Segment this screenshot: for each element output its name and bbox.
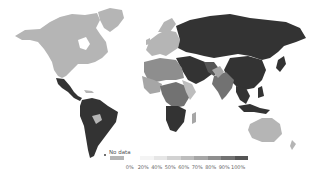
- legend-no-data-label: No data: [109, 149, 131, 155]
- legend-tick: 60%: [177, 164, 191, 170]
- legend-tick-labels: 0% 20% 40% 50% 60% 70% 80% 90% 100%: [123, 164, 245, 170]
- legend-swatch-80: [221, 156, 235, 160]
- region-mexico[interactable]: [56, 78, 82, 101]
- region-philippines[interactable]: [258, 86, 264, 98]
- legend-bullet: [104, 154, 106, 156]
- legend-swatch-20: [154, 156, 168, 160]
- region-japan[interactable]: [276, 56, 286, 72]
- region-indonesia[interactable]: [238, 104, 270, 114]
- legend-swatch-40: [167, 156, 181, 160]
- legend-tick: 70%: [191, 164, 205, 170]
- legend-tick: 20%: [137, 164, 151, 170]
- legend-swatch-50: [181, 156, 195, 160]
- legend-tick: 80%: [204, 164, 218, 170]
- legend-tick: 50%: [164, 164, 178, 170]
- region-new-zealand[interactable]: [290, 140, 296, 150]
- legend-swatch-70: [208, 156, 222, 160]
- region-madagascar[interactable]: [192, 112, 196, 124]
- legend-tick: 40%: [150, 164, 164, 170]
- legend-swatch-60: [194, 156, 208, 160]
- region-greenland[interactable]: [98, 8, 124, 32]
- legend-tick: 90%: [218, 164, 232, 170]
- region-scandinavia[interactable]: [158, 18, 176, 32]
- region-southern-africa[interactable]: [166, 106, 186, 132]
- region-russia[interactable]: [176, 14, 306, 60]
- region-uk[interactable]: [146, 38, 150, 45]
- world-map: [0, 0, 324, 177]
- legend-color-scale: [140, 156, 248, 160]
- legend-no-data-swatch: [110, 156, 124, 160]
- legend-swatch-90: [235, 156, 249, 160]
- legend-tick: 0%: [123, 164, 137, 170]
- region-australia[interactable]: [248, 118, 282, 142]
- region-caribbean[interactable]: [84, 90, 94, 93]
- region-europe[interactable]: [146, 30, 180, 56]
- region-north-america[interactable]: [15, 13, 108, 78]
- legend-swatch-0: [140, 156, 154, 160]
- legend-tick: 100%: [231, 164, 245, 170]
